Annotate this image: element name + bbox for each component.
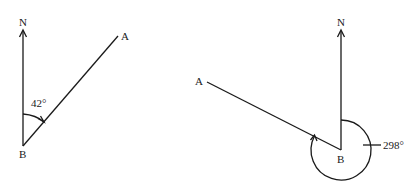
- point-a-label: A: [195, 75, 203, 87]
- line-ba: [23, 36, 118, 146]
- angle-label: 42°: [31, 97, 46, 109]
- line-ba: [207, 82, 341, 150]
- angle-label: 298°: [383, 139, 404, 151]
- point-a-label: A: [121, 30, 129, 42]
- diagram-bearing-298: [207, 30, 381, 180]
- north-label: N: [337, 16, 345, 28]
- point-b-label: B: [19, 148, 26, 160]
- north-label: N: [19, 16, 27, 28]
- diagram-bearing-42: [20, 30, 119, 146]
- bearing-diagrams: N A B 42° N A B 298°: [0, 0, 417, 190]
- point-b-label: B: [337, 153, 344, 165]
